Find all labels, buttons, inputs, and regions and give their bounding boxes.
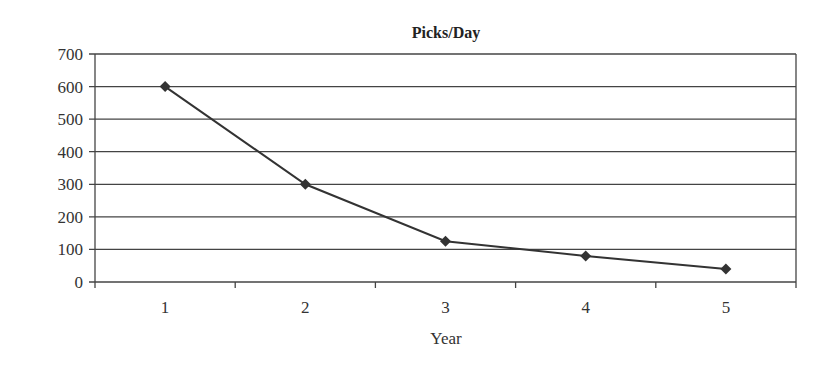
y-tick-label: 500 (58, 110, 84, 129)
x-axis: 12345 (161, 282, 730, 317)
x-tick-label: 3 (441, 298, 450, 317)
y-tick-label: 600 (58, 78, 84, 97)
data-series (160, 81, 732, 274)
x-tick-label: 5 (722, 298, 731, 317)
y-tick-label: 700 (58, 45, 84, 64)
y-tick-label: 100 (58, 240, 84, 259)
y-tick-label: 300 (58, 175, 84, 194)
y-tick-label: 0 (75, 273, 84, 292)
x-tick-label: 4 (581, 298, 590, 317)
diamond-marker (720, 263, 731, 274)
line-chart: Picks/Day 0100200300400500600700 12345 Y… (0, 0, 835, 365)
y-tick-label: 400 (58, 143, 84, 162)
diamond-marker (580, 250, 591, 261)
diamond-marker (440, 236, 451, 247)
y-tick-label: 200 (58, 208, 84, 227)
x-axis-title: Year (430, 329, 462, 348)
chart-title: Picks/Day (412, 24, 480, 42)
y-axis: 0100200300400500600700 (58, 45, 797, 292)
x-tick-label: 1 (161, 298, 170, 317)
gridlines (89, 54, 796, 282)
x-tick-label: 2 (301, 298, 310, 317)
